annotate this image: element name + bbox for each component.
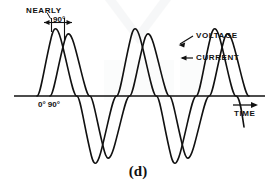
voltage-label: VOLTAGE [196, 32, 238, 40]
phase-angle-label: 90° [53, 16, 65, 24]
watermark [104, 0, 210, 100]
time-arrow-right-icon [233, 102, 258, 108]
axis-origin-marks-label: 0° 90° [38, 101, 60, 109]
current-label: CURRENT [196, 54, 239, 62]
figure-container: NEARLY 90° VOLTAGE CURRENT 0° 90° TIME (… [0, 0, 276, 189]
current-leader-arrow-icon [181, 56, 194, 61]
nearly-label: NEARLY [26, 7, 62, 15]
voltage-leader-arrow-icon [179, 36, 193, 47]
time-axis-label: TIME [234, 110, 256, 118]
waveform-plot [0, 0, 276, 189]
figure-caption: (d) [0, 163, 276, 180]
